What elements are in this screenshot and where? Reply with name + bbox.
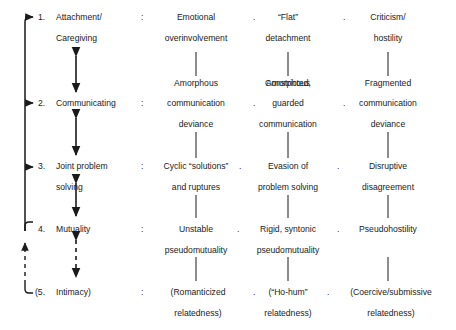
row-colon-1: : (141, 12, 143, 22)
cell-1-1-line2: overinvolvement (146, 33, 246, 43)
cell-1-2-line2: detachment (240, 33, 336, 43)
dimension-label-5-line1: Intimacy) (56, 287, 91, 297)
row-colon-5: : (141, 287, 143, 297)
cell-5-2-line2: relatedness) (242, 308, 334, 318)
separator-dot-2-1: . (253, 98, 255, 108)
cell-4-1-line2: pseudomutuality (146, 245, 246, 255)
cell-4-2-line2: pseudomutuality (236, 245, 340, 255)
dimension-label-1-line1: Attachment/ (56, 12, 102, 22)
cell-5-1-line1: (Romanticized (146, 287, 250, 297)
separator-dot-4-2: . (337, 224, 339, 234)
dimension-label-3-line2: solving (56, 182, 83, 192)
row-number-2: 2. (38, 98, 45, 108)
cell-2-3-line2: communication (336, 98, 440, 108)
cell-1-1-line1: Emotional (146, 12, 246, 22)
row-colon-3: : (141, 161, 143, 171)
cell-4-2-line1: Rigid, syntonic (236, 224, 340, 234)
separator-dot-5-1: . (253, 287, 255, 297)
left-bracket-solid (25, 17, 33, 231)
row-colon-4: : (141, 224, 143, 234)
row-number-4: 4. (38, 224, 45, 234)
row-colon-2: : (141, 98, 143, 108)
separator-dot-2-2: . (343, 98, 345, 108)
dimension-label-1-line2: Caregiving (56, 33, 97, 43)
cell-2-1-line1: Amorphous (146, 78, 246, 88)
cell-3-1-line1: Cyclic “solutions” (146, 161, 246, 171)
row-number-1: 1. (38, 12, 45, 22)
left-bracket-dashed (25, 243, 33, 293)
dimension-label-3-line1: Joint problem (56, 161, 108, 171)
cell-3-1-line2: and ruptures (146, 182, 246, 192)
cell-3-2-line1: Evasion of (240, 161, 336, 171)
cell-3-3-line1: Disruptive (336, 161, 440, 171)
bracket-bottom-curve (25, 222, 33, 231)
cell-1-2-line1: “Flat” (240, 12, 336, 22)
row-number-5: (5. (35, 287, 45, 297)
cell-3-3-line2: disagreement (336, 182, 440, 192)
cell-4-1-line1: Unstable (146, 224, 246, 234)
bracket-spine (25, 17, 29, 231)
dimension-label-2-line1: Communicating (56, 98, 116, 108)
cell-4-3-line1: Pseudohostility (336, 224, 440, 234)
relational-dimensions-diagram: 1. Attachment/ Caregiving : Emotional ov… (0, 0, 456, 330)
cell-2-2-line3: communication (240, 119, 336, 129)
cell-2-3-line1: Fragmented (336, 78, 440, 88)
cell-5-3-line1: (Coercive/submissive (330, 287, 452, 297)
cell-2-1-line3: deviance (146, 119, 246, 129)
separator-dot-5-2: . (327, 287, 329, 297)
cell-2-1-line2: communication (146, 98, 246, 108)
cell-5-2-line1: (“Ho-hum” (242, 287, 334, 297)
dimension-label-4-line1: Mutuality (56, 224, 90, 234)
cell-1-3-line2: hostility (336, 33, 440, 43)
cell-1-3-line1: Criticism/ (336, 12, 440, 22)
separator-dot-4-1: . (237, 224, 239, 234)
cell-5-1-line2: relatedness) (146, 308, 250, 318)
dashed-bottom-curve (25, 284, 33, 293)
cell-3-2-line2: problem solving (240, 182, 336, 192)
separator-dot-3-2: . (337, 161, 339, 171)
separator-dot-3-1: . (239, 161, 241, 171)
row-number-3: 3. (38, 161, 45, 171)
cell-5-3-line2: relatedness) (330, 308, 452, 318)
cell-2-2-line1b: Constricted, (240, 78, 336, 88)
cell-2-3-line3: deviance (336, 119, 440, 129)
